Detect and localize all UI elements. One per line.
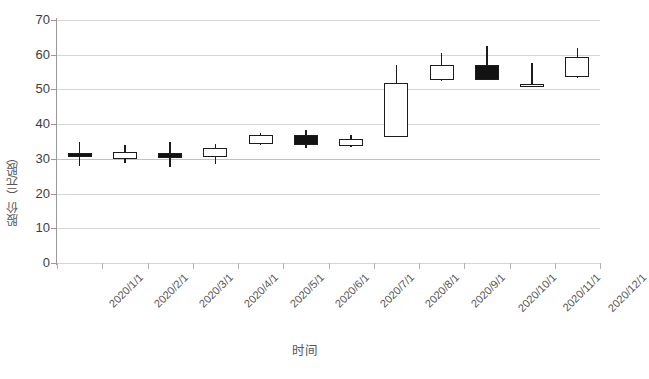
x-tick-label: 2020/10/1 bbox=[515, 271, 558, 314]
x-tick-mark bbox=[464, 263, 465, 269]
candle-body bbox=[68, 153, 92, 158]
x-tick-mark bbox=[419, 263, 420, 269]
x-tick-mark bbox=[238, 263, 239, 269]
candle-body bbox=[430, 65, 454, 80]
x-tick-label: 2020/12/1 bbox=[606, 271, 649, 314]
gridline bbox=[57, 20, 600, 21]
x-tick-label: 2020/7/1 bbox=[378, 271, 417, 310]
x-tick-mark bbox=[102, 263, 103, 269]
x-tick-mark bbox=[193, 263, 194, 269]
x-tick-label: 2020/2/1 bbox=[151, 271, 190, 310]
x-tick-label: 2020/6/1 bbox=[332, 271, 371, 310]
y-tick-label: 60 bbox=[16, 47, 50, 62]
gridline bbox=[57, 55, 600, 56]
x-tick-label: 2020/5/1 bbox=[287, 271, 326, 310]
gridline bbox=[57, 194, 600, 195]
y-tick-mark bbox=[51, 20, 56, 21]
gridline bbox=[57, 228, 600, 229]
candle-body bbox=[203, 148, 227, 157]
candle-body bbox=[294, 135, 318, 145]
candle-body bbox=[520, 84, 544, 87]
x-tick-label: 2020/4/1 bbox=[242, 271, 281, 310]
x-tick-mark bbox=[600, 263, 601, 269]
y-tick-label: 20 bbox=[16, 186, 50, 201]
x-tick-mark bbox=[374, 263, 375, 269]
x-tick-mark bbox=[510, 263, 511, 269]
x-tick-mark bbox=[555, 263, 556, 269]
y-tick-mark bbox=[51, 55, 56, 56]
candle-body bbox=[339, 139, 363, 147]
y-tick-mark bbox=[51, 159, 56, 160]
x-tick-label: 2020/11/1 bbox=[560, 271, 603, 314]
x-tick-mark bbox=[283, 263, 284, 269]
x-tick-label: 2020/9/1 bbox=[468, 271, 507, 310]
candle-body bbox=[475, 65, 499, 80]
y-tick-label: 40 bbox=[16, 116, 50, 131]
y-tick-mark bbox=[51, 228, 56, 229]
x-tick-mark bbox=[148, 263, 149, 269]
x-tick-label: 2020/3/1 bbox=[197, 271, 236, 310]
candle-body bbox=[249, 135, 273, 145]
x-tick-label: 2020/8/1 bbox=[423, 271, 462, 310]
candle-body bbox=[158, 153, 182, 158]
y-tick-label: 10 bbox=[16, 220, 50, 235]
candle-body bbox=[565, 57, 589, 77]
y-tick-label: 0 bbox=[16, 255, 50, 270]
gridline bbox=[57, 159, 600, 160]
x-tick-label: 2020/1/1 bbox=[106, 271, 145, 310]
plot-area bbox=[57, 20, 600, 263]
gridline bbox=[57, 89, 600, 90]
y-tick-label: 30 bbox=[16, 151, 50, 166]
y-tick-mark bbox=[51, 89, 56, 90]
y-tick-mark bbox=[51, 194, 56, 195]
y-tick-label: 50 bbox=[16, 81, 50, 96]
x-tick-mark bbox=[57, 263, 58, 269]
gridline bbox=[57, 124, 600, 125]
x-tick-mark bbox=[329, 263, 330, 269]
candle-body bbox=[113, 152, 137, 159]
y-tick-mark bbox=[51, 263, 56, 264]
y-tick-label: 70 bbox=[16, 12, 50, 27]
y-tick-mark bbox=[51, 124, 56, 125]
candle-body bbox=[384, 83, 408, 136]
x-axis-title: 时间 bbox=[0, 340, 610, 359]
